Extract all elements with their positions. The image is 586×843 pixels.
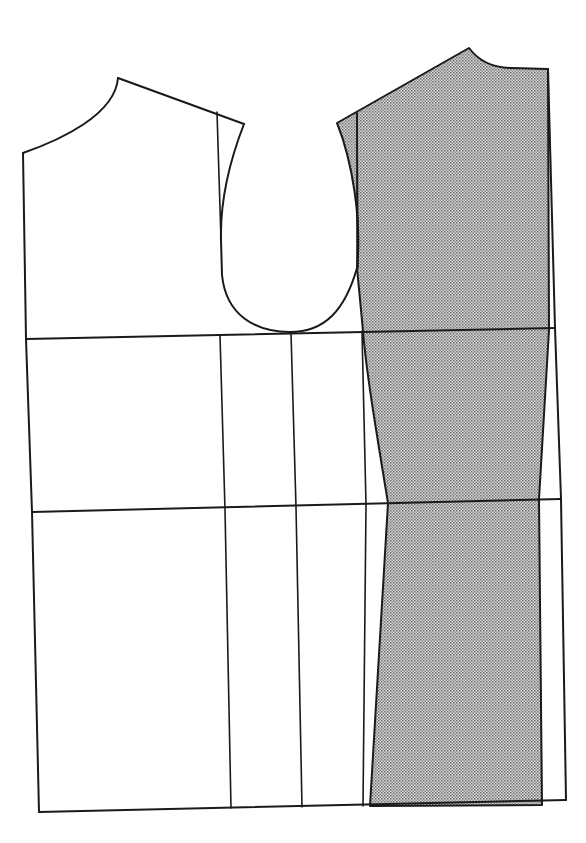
pattern-diagram: Bodice pattern draft: back piece (left, … [0,0,586,843]
center-guide [291,333,302,807]
back-bodice-piece [23,78,357,812]
front-bodice-piece [337,48,549,806]
center-back-line [23,153,39,812]
outer-right-edge [548,69,566,800]
back-neckline [23,78,118,153]
side-guide-left [217,112,231,808]
armhole-curve [221,124,357,332]
back-shoulder [118,78,244,124]
